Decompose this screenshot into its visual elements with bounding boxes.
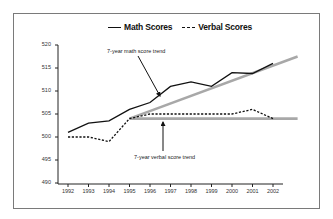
x-tick-label: 1998 xyxy=(181,188,201,194)
verbal-trend-annotation: 7-year verbal score trend xyxy=(134,154,195,160)
x-tick-label: 1999 xyxy=(202,188,222,194)
x-tick-label: 1992 xyxy=(58,188,78,194)
y-tick-label: 510 xyxy=(31,87,51,93)
trend-line xyxy=(130,57,298,119)
x-tick-label: 1995 xyxy=(120,188,140,194)
x-tick-label: 1993 xyxy=(79,188,99,194)
x-tick-label: 1994 xyxy=(99,188,119,194)
y-tick-label: 520 xyxy=(31,41,51,47)
legend-label-verbal: Verbal Scores xyxy=(198,22,252,32)
legend-item-verbal: Verbal Scores xyxy=(182,22,252,32)
y-tick-label: 505 xyxy=(31,110,51,116)
y-tick-label: 500 xyxy=(31,133,51,139)
axes xyxy=(55,45,283,187)
x-tick-label: 2000 xyxy=(222,188,242,194)
x-tick-label: 2002 xyxy=(263,188,283,194)
y-tick-label: 490 xyxy=(31,179,51,185)
legend-item-math: Math Scores xyxy=(108,22,172,32)
trend-lines xyxy=(130,57,298,119)
x-tick-label: 2001 xyxy=(243,188,263,194)
y-tick-label: 495 xyxy=(31,156,51,162)
legend-label-math: Math Scores xyxy=(124,22,172,32)
x-tick-label: 1996 xyxy=(140,188,160,194)
solid-line-swatch-icon xyxy=(108,27,121,28)
chart-legend: Math Scores Verbal Scores xyxy=(108,22,262,32)
math-scores-line xyxy=(68,63,273,132)
dashed-line-swatch-icon xyxy=(182,27,195,28)
x-tick-label: 1997 xyxy=(161,188,181,194)
y-tick-label: 515 xyxy=(31,64,51,70)
verbal-scores-line xyxy=(68,109,273,141)
math-trend-arrow xyxy=(138,56,160,96)
annotation-arrows xyxy=(138,56,163,151)
math-trend-annotation: 7-year math score trend xyxy=(107,48,165,54)
